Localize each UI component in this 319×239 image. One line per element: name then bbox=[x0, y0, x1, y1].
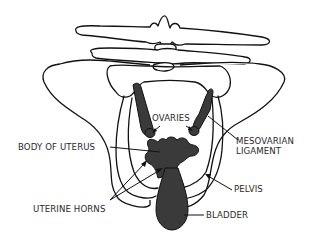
label-pelvis: PELVIS bbox=[234, 184, 263, 194]
label-mesovarian-ligament-1: MESOVARIAN bbox=[236, 136, 294, 146]
right-ovary-stalk bbox=[193, 89, 213, 131]
label-body-of-uterus: BODY OF UTERUS bbox=[18, 142, 95, 152]
vertebra-lower bbox=[91, 48, 251, 71]
label-uterine-horns: UTERINE HORNS bbox=[33, 204, 105, 214]
left-ovary-stalk bbox=[133, 83, 153, 135]
vertebra-upper bbox=[76, 16, 270, 52]
right-ovary bbox=[189, 127, 199, 136]
anatomy-diagram: OVARIES BODY OF UTERUS MESOVARIAN LIGAME… bbox=[0, 0, 319, 239]
reproductive-tract bbox=[133, 83, 213, 230]
label-bladder: BLADDER bbox=[206, 210, 248, 220]
left-ovary bbox=[145, 129, 155, 138]
label-ovaries: OVARIES bbox=[152, 113, 190, 123]
label-mesovarian-ligament-2: LIGAMENT bbox=[236, 146, 282, 156]
